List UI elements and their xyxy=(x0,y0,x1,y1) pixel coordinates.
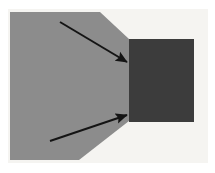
dark-rectangular-block xyxy=(129,39,194,122)
schematic-figure xyxy=(0,0,215,173)
figure-container: Grayscale schematic: wedge-shaped gray r… xyxy=(0,0,215,173)
